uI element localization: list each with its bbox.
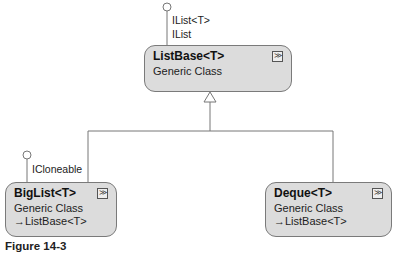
double-chevron-down-icon[interactable]: ≫ [372,188,383,199]
class-box-biglist[interactable]: BigList<T> Generic Class →ListBase<T> ≫ [5,182,117,237]
arrow-right-triangle-icon: → [14,215,25,227]
class-box-listbase[interactable]: ListBase<T> Generic Class ≫ [144,45,292,92]
interface-label-ilist-generic: IList<T> [172,14,210,27]
class-name: BigList<T> [14,186,108,201]
lollipop-icon [23,151,31,182]
inheritance-arrow [88,92,333,182]
double-chevron-down-icon[interactable]: ≫ [97,188,108,199]
lollipop-icon [163,3,171,45]
figure-caption: Figure 14-3 [5,240,66,252]
arrow-right-triangle-icon: → [274,215,285,227]
base-class: ListBase<T> [285,215,347,227]
double-chevron-down-icon[interactable]: ≫ [272,51,283,62]
inheritance-line: →ListBase<T> [14,215,108,228]
class-kind: Generic Class [14,201,108,215]
class-box-deque[interactable]: Deque<T> Generic Class →ListBase<T> ≫ [265,182,392,237]
class-kind: Generic Class [274,201,383,215]
base-class: ListBase<T> [25,215,87,227]
inheritance-line: →ListBase<T> [274,215,383,228]
interface-label-ilist: IList [172,28,191,41]
interface-label-icloneable: ICloneable [32,163,82,176]
class-name: Deque<T> [274,186,383,201]
class-kind: Generic Class [153,64,283,78]
class-name: ListBase<T> [153,49,283,64]
